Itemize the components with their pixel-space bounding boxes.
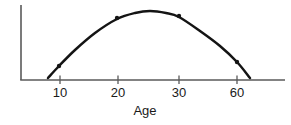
x-tick-label-30: 30: [159, 86, 199, 100]
data-curve: [48, 11, 250, 78]
data-point-marker: [115, 16, 119, 20]
x-tick-label-10: 10: [40, 86, 80, 100]
chart-figure: 10 20 30 60 Age: [0, 0, 291, 125]
data-point-marker: [57, 64, 61, 68]
x-tick-label-20: 20: [98, 86, 138, 100]
data-point-marker: [177, 14, 181, 18]
data-point-marker: [235, 60, 239, 64]
x-tick-label-60: 60: [217, 86, 257, 100]
x-axis-title: Age: [105, 103, 185, 118]
